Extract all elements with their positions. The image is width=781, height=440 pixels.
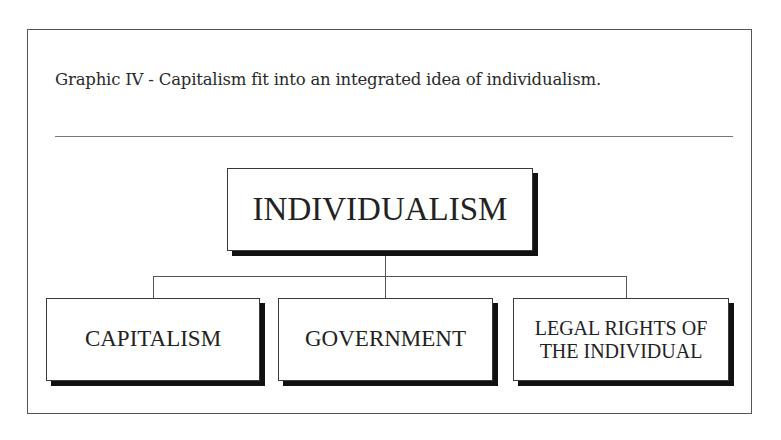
node-capitalism-label: CAPITALISM <box>85 326 221 352</box>
node-individualism: INDIVIDUALISM <box>227 168 533 251</box>
caption-divider <box>55 136 733 137</box>
figure-caption: Graphic IV - Capitalism fit into an inte… <box>55 70 601 89</box>
node-legal-rights: LEGAL RIGHTS OF THE INDIVIDUAL <box>513 298 729 381</box>
node-legal-rights-line1: LEGAL RIGHTS OF <box>535 317 708 340</box>
node-capitalism: CAPITALISM <box>46 298 260 381</box>
node-legal-rights-line2: THE INDIVIDUAL <box>535 340 708 363</box>
node-legal-rights-label: LEGAL RIGHTS OF THE INDIVIDUAL <box>535 317 708 363</box>
node-individualism-label: INDIVIDUALISM <box>253 191 508 228</box>
node-government-label: GOVERNMENT <box>305 326 466 352</box>
node-government: GOVERNMENT <box>278 298 493 381</box>
